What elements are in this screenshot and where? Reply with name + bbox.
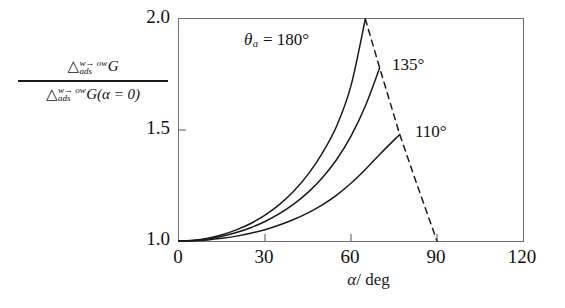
x-tick-label-60: 60 [323, 246, 377, 268]
ads-wow-script: w→ owads [79, 58, 107, 76]
alpha-symbol: α [347, 270, 356, 289]
plot-area [178, 18, 524, 242]
x-axis-title: α/ deg [0, 270, 565, 290]
y-axis-label: △w→ owadsG △w→ owadsG(α = 0) [18, 58, 168, 104]
figure-container: △w→ owadsG △w→ owadsG(α = 0) 2.0 1.5 1.0… [0, 0, 565, 308]
ads-wow-script-denominator: w→ owads [58, 86, 86, 104]
g-alpha-zero-symbol: G(α = 0) [86, 86, 140, 102]
delta-symbol-denominator: △ [46, 86, 58, 102]
y-tick-label-2-0: 2.0 [122, 6, 170, 28]
delta-symbol: △ [67, 58, 79, 74]
x-tick-label-30: 30 [237, 246, 291, 268]
subscript-ads: ads [79, 67, 107, 76]
x-tick-label-120: 120 [495, 246, 549, 268]
x-tick-label-0: 0 [151, 246, 205, 268]
g-symbol: G [108, 58, 119, 74]
fraction-rule [18, 80, 168, 81]
x-axis-unit: / deg [356, 270, 390, 289]
curve-envelope [365, 19, 437, 241]
data-curves [179, 19, 437, 241]
y-axis-label-denominator: △w→ owadsG(α = 0) [18, 85, 168, 104]
y-axis-label-numerator: △w→ owadsG [18, 58, 168, 78]
curve-110- [179, 134, 400, 241]
curve-theta-a-180- [179, 19, 365, 241]
axis-ticks [179, 130, 437, 241]
plot-svg [179, 19, 523, 241]
y-tick-label-1-5: 1.5 [122, 117, 170, 139]
x-tick-label-90: 90 [409, 246, 463, 268]
curve-135- [179, 68, 380, 241]
subscript-ads-denominator: ads [58, 94, 86, 103]
